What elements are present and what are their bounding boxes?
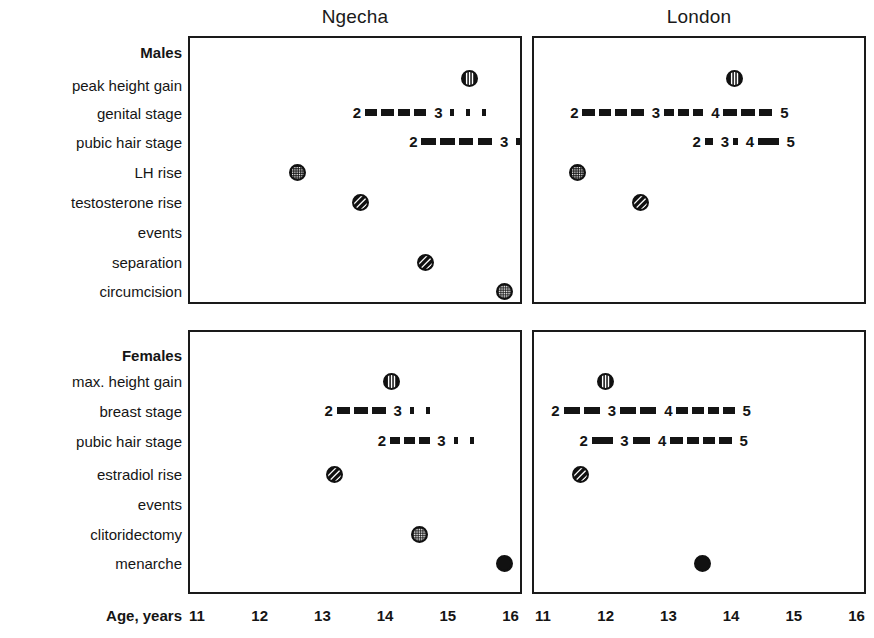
marker-london-females-estradiol-rise — [572, 466, 589, 483]
stage-dash — [564, 407, 580, 414]
stage-dash — [640, 407, 656, 414]
stage-number-2: 2 — [549, 402, 563, 420]
stage-dash — [664, 109, 675, 116]
row-label-menarche: menarche — [0, 556, 182, 571]
stage-dash — [692, 407, 704, 414]
marker-london-females-menarche — [694, 555, 711, 572]
x-tick-london-15: 15 — [779, 607, 809, 624]
stage-number-3: 3 — [618, 432, 632, 450]
row-label-circumcision: circumcision — [0, 284, 182, 299]
x-tick-london-16: 16 — [842, 607, 872, 624]
x-tick-london-14: 14 — [716, 607, 746, 624]
group-heading-females: Females — [0, 348, 182, 363]
x-tick-london-11: 11 — [528, 607, 558, 624]
marker-london-males-testosterone-rise — [632, 194, 649, 211]
marker-ngecha-males-peak-height-gain — [461, 70, 478, 87]
marker-ngecha-females-clitoridectomy — [411, 526, 428, 543]
marker-ngecha-females-menarche — [496, 555, 513, 572]
x-tick-london-13: 13 — [653, 607, 683, 624]
marker-ngecha-males-separation — [417, 254, 434, 271]
panel-ngecha-females — [188, 330, 522, 594]
stage-number-5: 5 — [737, 432, 751, 450]
row-label-events-females: events — [0, 497, 182, 512]
stage-dash — [676, 407, 688, 414]
x-tick-ngecha-12: 12 — [245, 607, 275, 624]
marker-ngecha-females-estradiol-rise — [326, 466, 343, 483]
stage-dash — [584, 407, 600, 414]
stage-scale-london-males-genital-stage: 2345 — [0, 104, 874, 122]
panel-title-london: London — [532, 6, 866, 28]
stage-number-5: 5 — [777, 104, 791, 122]
x-tick-ngecha-11: 11 — [182, 607, 212, 624]
stage-dash — [582, 109, 594, 116]
marker-london-males-lh-rise — [569, 164, 586, 181]
stage-number-2: 2 — [567, 104, 581, 122]
stage-dash — [670, 437, 682, 444]
marker-ngecha-males-circumcision — [496, 283, 513, 300]
row-label-separation: separation — [0, 255, 182, 270]
marker-ngecha-males-testosterone-rise — [352, 194, 369, 211]
stage-scale-london-females-breast-stage: 2345 — [0, 402, 874, 420]
x-tick-ngecha-16: 16 — [496, 607, 526, 624]
stage-dash — [723, 109, 737, 116]
stage-dash — [620, 407, 636, 414]
marker-london-males-peak-height-gain — [726, 70, 743, 87]
stage-number-3: 3 — [649, 104, 663, 122]
stage-dash — [733, 138, 738, 145]
marker-london-females-max-height-gain — [597, 373, 614, 390]
stage-dash — [703, 437, 715, 444]
marker-ngecha-males-lh-rise — [289, 164, 306, 181]
stage-dash — [758, 138, 779, 145]
stage-dash — [693, 109, 704, 116]
x-tick-ngecha-15: 15 — [433, 607, 463, 624]
row-label-estradiol-rise: estradiol rise — [0, 467, 182, 482]
stage-number-3: 3 — [718, 133, 732, 151]
stage-number-2: 2 — [690, 133, 704, 151]
row-label-lh-rise: LH rise — [0, 165, 182, 180]
marker-ngecha-females-max-height-gain — [383, 373, 400, 390]
x-tick-ngecha-14: 14 — [370, 607, 400, 624]
stage-dash — [723, 407, 735, 414]
row-label-max-height-gain: max. height gain — [0, 374, 182, 389]
row-label-clitoridectomy: clitoridectomy — [0, 527, 182, 542]
stage-dash — [719, 437, 731, 444]
row-label-peak-height-gain: peak height gain — [0, 78, 182, 93]
x-tick-london-12: 12 — [591, 607, 621, 624]
row-label-testosterone-rise: testosterone rise — [0, 195, 182, 210]
stage-dash — [633, 437, 651, 444]
stage-dash — [708, 407, 720, 414]
stage-dash — [592, 437, 613, 444]
stage-number-4: 4 — [743, 133, 757, 151]
x-tick-ngecha-13: 13 — [307, 607, 337, 624]
stage-scale-london-females-pubic-hair-stage: 2345 — [0, 432, 874, 450]
row-label-events-males: events — [0, 225, 182, 240]
stage-number-5: 5 — [740, 402, 754, 420]
axis-title: Age, years — [0, 607, 182, 624]
stage-dash — [599, 109, 611, 116]
stage-dash — [687, 437, 699, 444]
group-heading-males: Males — [0, 45, 182, 60]
stage-number-4: 4 — [655, 432, 669, 450]
figure-canvas: Ngecha London Males Females peak height … — [0, 0, 874, 638]
stage-dash — [678, 109, 689, 116]
stage-dash — [615, 109, 627, 116]
stage-number-3: 3 — [605, 402, 619, 420]
stage-number-4: 4 — [708, 104, 722, 122]
stage-dash — [705, 138, 713, 145]
stage-scale-london-males-pubic-hair-stage: 2345 — [0, 133, 874, 151]
stage-number-5: 5 — [784, 133, 798, 151]
stage-number-4: 4 — [661, 402, 675, 420]
stage-number-2: 2 — [577, 432, 591, 450]
stage-dash — [631, 109, 643, 116]
stage-dash — [741, 109, 755, 116]
stage-dash — [759, 109, 773, 116]
panel-title-ngecha: Ngecha — [188, 6, 522, 28]
